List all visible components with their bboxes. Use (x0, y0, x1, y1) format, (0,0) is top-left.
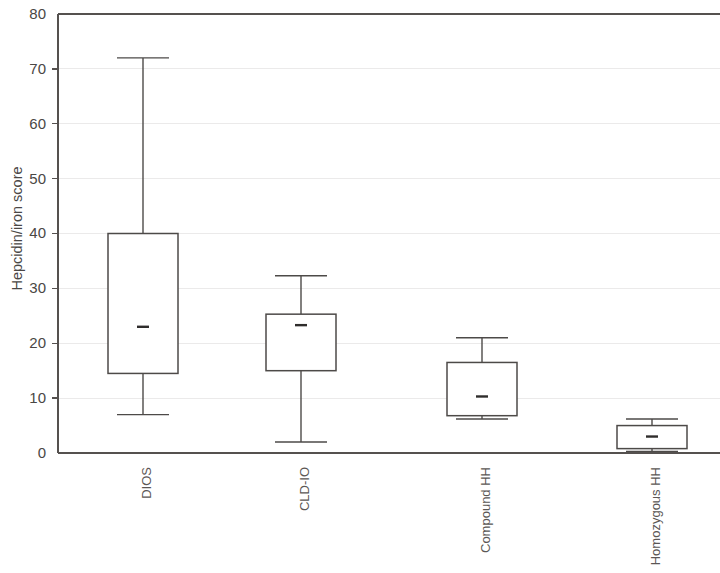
y-tick-label: 0 (38, 444, 46, 461)
box-plots (108, 58, 687, 451)
box-plot-compound-hh (447, 338, 517, 419)
boxplot-chart: 01020304050607080 DIOSCLD-IOCompound HHH… (0, 0, 720, 573)
plot-area: 01020304050607080 DIOSCLD-IOCompound HHH… (0, 0, 720, 573)
y-axis-title-text: Hepcidin/iron score (9, 166, 25, 290)
x-category-label: Homozygous HH (648, 467, 663, 565)
box-plot-dios (108, 58, 178, 415)
x-category-label: CLD-IO (297, 467, 312, 511)
y-tick-label: 40 (29, 224, 46, 241)
y-tick-label: 30 (29, 279, 46, 296)
y-axis-tick-labels: 01020304050607080 (29, 5, 46, 461)
y-tick-label: 70 (29, 60, 46, 77)
x-category-label: Compound HH (478, 467, 493, 553)
x-axis-category-labels: DIOSCLD-IOCompound HHHomozygous HH (139, 467, 663, 566)
y-tick-label: 20 (29, 334, 46, 351)
iqr-box (266, 314, 336, 371)
box-plot-homozygous-hh (617, 419, 687, 451)
y-tick-label: 80 (29, 5, 46, 22)
y-tick-label: 50 (29, 170, 46, 187)
y-tick-label: 60 (29, 115, 46, 132)
iqr-box (108, 234, 178, 374)
y-tick-label: 10 (29, 389, 46, 406)
y-axis-ticks (52, 69, 58, 398)
box-plot-cld-io (266, 276, 336, 442)
y-axis-title: Hepcidin/iron score (9, 166, 25, 290)
iqr-box (447, 362, 517, 415)
x-category-label: DIOS (139, 467, 154, 499)
